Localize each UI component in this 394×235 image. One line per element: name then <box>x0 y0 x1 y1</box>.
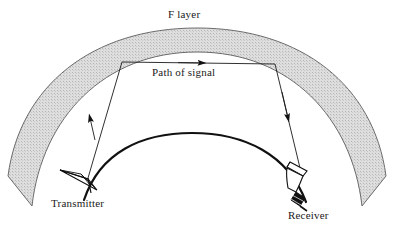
transmitter-label: Transmitter <box>51 197 104 209</box>
path-of-signal-label: Path of signal <box>152 66 215 78</box>
receiver-label: Receiver <box>288 209 329 221</box>
downlink-arrow <box>282 92 288 118</box>
f-layer-band <box>8 28 386 206</box>
receiver-antenna <box>287 162 307 211</box>
uplink-arrow <box>90 118 95 140</box>
signal-path <box>88 62 300 178</box>
earth-surface-arc <box>84 133 306 202</box>
ionospheric-propagation-diagram: F layer Path of signal Transmitter Recei… <box>0 0 394 235</box>
f-layer-label: F layer <box>168 8 200 20</box>
